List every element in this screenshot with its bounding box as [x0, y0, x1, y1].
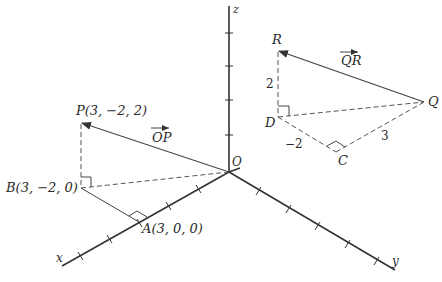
z-axis-label: z	[232, 3, 239, 16]
cq-dashed	[336, 102, 424, 152]
z-axis	[225, 6, 233, 172]
diagram-canvas: z x y O P(3, −2, 2) B(3, −2, 0) A(3, 0, …	[0, 0, 442, 282]
right-angle-c	[327, 141, 345, 147]
ba-segment	[81, 188, 139, 222]
bo-dashed	[81, 172, 229, 188]
right-angle-d	[278, 106, 289, 116]
vector-qr-label: QR	[341, 53, 362, 68]
y-axis	[229, 172, 395, 270]
right-angle-a	[129, 211, 147, 217]
point-p-label: P(3, −2, 2)	[75, 103, 147, 118]
point-d-label: D	[264, 115, 276, 130]
x-axis-label: x	[56, 251, 63, 265]
vector-op-label: OP	[152, 130, 172, 145]
point-b-label: B(3, −2, 0)	[5, 180, 78, 195]
origin-label: O	[232, 155, 242, 169]
dc-length-label: −2	[285, 137, 303, 151]
x-axis	[62, 172, 229, 266]
right-angle-b	[81, 177, 91, 187]
vector-diagram: z x y O P(3, −2, 2) B(3, −2, 0) A(3, 0, …	[0, 0, 442, 282]
cq-length-label: 3	[381, 129, 389, 143]
point-c-label: C	[338, 153, 348, 168]
rd-length-label: 2	[266, 77, 274, 91]
y-axis-label: y	[391, 254, 399, 268]
point-r-label: R	[271, 32, 282, 47]
point-a-label: A(3, 0, 0)	[141, 221, 203, 236]
point-q-label: Q	[428, 94, 439, 109]
